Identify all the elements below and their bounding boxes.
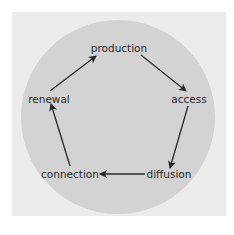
node-renewal: renewal (28, 93, 70, 105)
cycle-diagram: production access diffusion connection r… (0, 0, 234, 235)
node-access: access (171, 93, 206, 105)
node-production: production (91, 42, 147, 54)
node-connection: connection (41, 168, 99, 180)
node-diffusion: diffusion (147, 168, 192, 180)
